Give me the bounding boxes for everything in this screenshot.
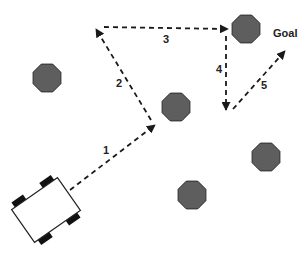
path-label-3: 3 — [163, 33, 169, 45]
obstacle-center — [162, 93, 190, 121]
path-segment-2 — [96, 29, 151, 120]
obstacle-bottom — [178, 181, 206, 209]
obstacle-top-right — [232, 15, 260, 43]
path-segment-5 — [233, 51, 285, 109]
goal-label: Goal — [273, 27, 297, 39]
path-segment-1 — [70, 125, 155, 190]
obstacle-right — [252, 143, 280, 171]
obstacle-left — [33, 64, 61, 92]
path-label-2: 2 — [116, 77, 122, 89]
obstacles-group — [33, 15, 280, 209]
path-label-5: 5 — [261, 79, 267, 91]
path-segment-3 — [104, 27, 228, 29]
path-label-4: 4 — [216, 63, 223, 75]
robot — [8, 173, 84, 248]
path-planning-diagram: 12345 Goal — [0, 0, 307, 254]
path-label-1: 1 — [103, 144, 109, 156]
robot-body — [12, 178, 81, 243]
